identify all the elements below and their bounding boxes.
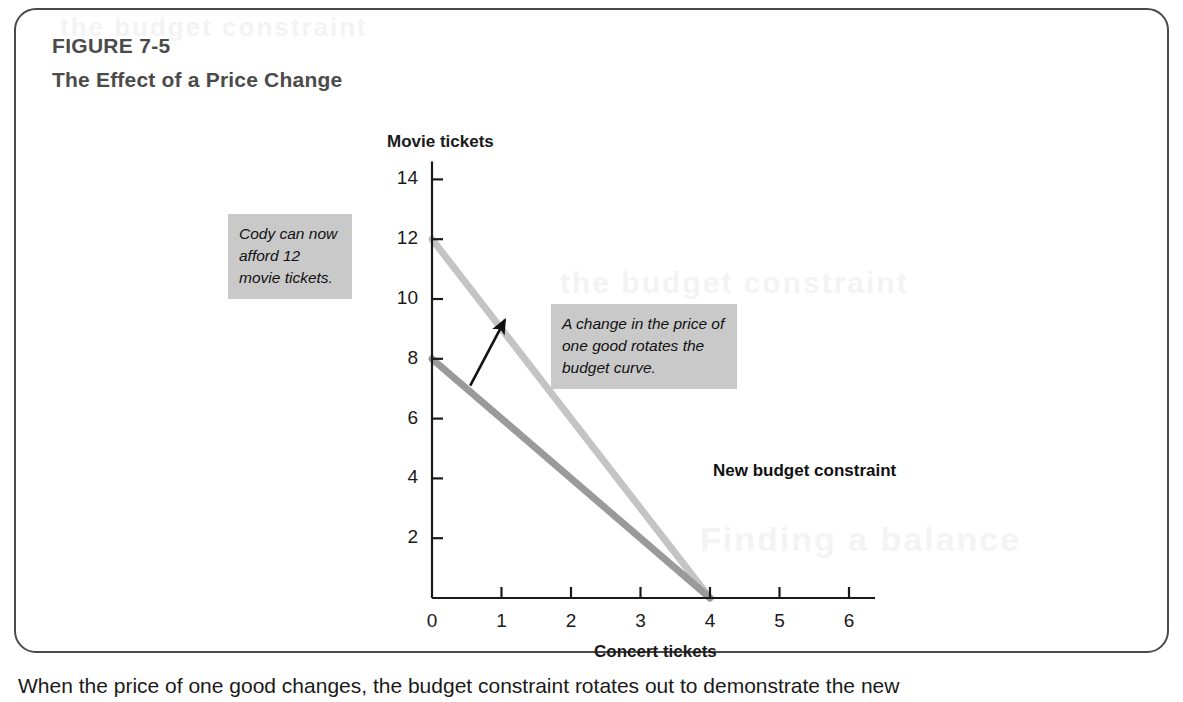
x-tick-label-3: 3 — [629, 610, 653, 632]
figure-caption: When the price of one good changes, the … — [18, 672, 1168, 699]
callout-price-rotates: A change in the price of one good rotate… — [551, 304, 737, 389]
figure-title: The Effect of a Price Change — [52, 68, 342, 92]
y-tick-label-10: 10 — [386, 287, 418, 309]
callout-cody-afford: Cody can now afford 12 movie tickets. — [228, 214, 352, 299]
y-tick-label-4: 4 — [386, 466, 418, 488]
x-axis-title: Concert tickets — [594, 642, 717, 662]
y-tick-label-14: 14 — [386, 167, 418, 189]
y-tick-label-8: 8 — [386, 347, 418, 369]
figure-number: FIGURE 7-5 — [52, 34, 342, 58]
x-tick-label-1: 1 — [490, 610, 514, 632]
figure-header: FIGURE 7-5 The Effect of a Price Change — [52, 34, 342, 92]
new-budget-constraint-label: New budget constraint — [713, 461, 896, 481]
y-tick-label-12: 12 — [386, 227, 418, 249]
x-tick-label-2: 2 — [559, 610, 583, 632]
x-tick-label-5: 5 — [768, 610, 792, 632]
x-tick-label-4: 4 — [698, 610, 722, 632]
x-tick-label-0: 0 — [420, 610, 444, 632]
y-tick-label-2: 2 — [386, 526, 418, 548]
x-tick-label-6: 6 — [837, 610, 861, 632]
y-tick-label-6: 6 — [386, 407, 418, 429]
y-axis-title: Movie tickets — [387, 132, 494, 152]
